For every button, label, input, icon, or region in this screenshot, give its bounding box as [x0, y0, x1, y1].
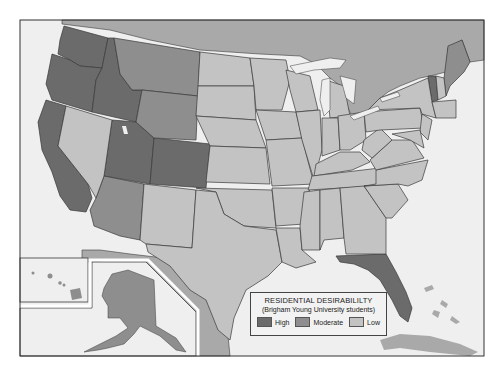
legend-keys: High Moderate Low — [251, 317, 386, 327]
inset-hawaii — [20, 258, 88, 302]
state-indiana — [322, 118, 340, 156]
state-kansas — [206, 146, 270, 184]
swatch-low — [349, 317, 364, 327]
state-new-mexico — [140, 184, 196, 248]
swatch-moderate — [295, 317, 310, 327]
state-minnesota — [250, 58, 290, 110]
state-mississippi — [300, 190, 320, 250]
swatch-high — [257, 317, 272, 327]
legend-label-high: High — [275, 319, 289, 326]
state-south-dakota — [196, 86, 256, 120]
legend-label-low: Low — [367, 319, 380, 326]
legend-item-high: High — [257, 317, 289, 327]
state-colorado — [150, 138, 210, 188]
state-new-hampshire — [436, 76, 446, 100]
legend-label-moderate: Moderate — [313, 319, 343, 326]
legend: RESIDENTIAL DESIRABILILTY (Brigham Young… — [250, 292, 387, 336]
legend-title: RESIDENTIAL DESIRABILILTY — [251, 296, 386, 305]
legend-item-moderate: Moderate — [295, 317, 343, 327]
legend-item-low: Low — [349, 317, 380, 327]
legend-subtitle: (Brigham Young University students) — [251, 306, 386, 313]
state-massachusetts-ct-ri — [432, 100, 456, 118]
